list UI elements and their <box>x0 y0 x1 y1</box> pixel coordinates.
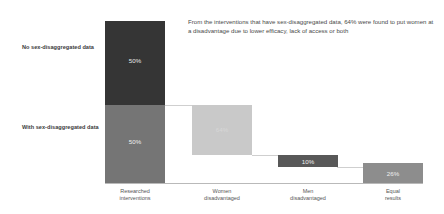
x-tick-researched-interventions: Researched interventions <box>92 188 178 203</box>
x-tick-line-2: results <box>350 195 436 202</box>
bar-value-no-data: 50% <box>105 57 165 64</box>
x-tick-men-disadvantaged: Men disadvantaged <box>265 188 351 203</box>
x-axis-baseline <box>105 183 423 184</box>
x-tick-line-2: interventions <box>92 195 178 202</box>
bar-equal-results: 26% <box>363 163 423 183</box>
x-tick-line-1: Researched <box>92 188 178 195</box>
bar-men-disadvantaged: 10% <box>278 155 338 167</box>
connector-bar2-bar3 <box>252 155 278 156</box>
connector-bar1-bar2 <box>165 105 193 106</box>
bar-value-women-disadvantaged: 64% <box>192 126 252 133</box>
plot-area: 50% 50% 64% 10% 26% Researched intervent… <box>0 0 444 214</box>
x-tick-women-disadvantaged: Women disadvantaged <box>179 188 265 203</box>
bar-researched-interventions-with-data: 50% <box>105 105 165 183</box>
x-tick-line-2: disadvantaged <box>179 195 265 202</box>
bar-women-disadvantaged: 64% <box>192 105 252 155</box>
bar-researched-interventions-no-data: 50% <box>105 21 165 105</box>
x-tick-equal-results: Equal results <box>350 188 436 203</box>
x-tick-line-1: Women <box>179 188 265 195</box>
x-tick-line-1: Equal <box>350 188 436 195</box>
bar-value-with-data: 50% <box>105 138 165 145</box>
bar-value-men-disadvantaged: 10% <box>278 158 338 165</box>
connector-bar3-bar4 <box>337 167 363 168</box>
x-tick-line-2: disadvantaged <box>265 195 351 202</box>
bar-value-equal-results: 26% <box>363 170 423 177</box>
x-tick-line-1: Men <box>265 188 351 195</box>
waterfall-chart: No sex-disaggregated data With sex-disag… <box>0 0 444 214</box>
